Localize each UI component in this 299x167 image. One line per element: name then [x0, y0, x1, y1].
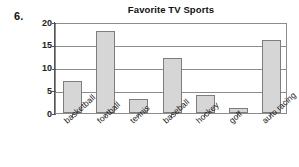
- y-axis-tick-mark: [52, 46, 56, 47]
- y-axis-tick-mark: [52, 91, 56, 92]
- y-axis-tick-mark: [52, 23, 56, 24]
- y-axis-tick-mark: [52, 69, 56, 70]
- y-axis-tick-label: 15: [30, 41, 52, 50]
- y-axis-tick-label: 5: [30, 87, 52, 96]
- y-axis-tick-label: 20: [30, 19, 52, 28]
- y-axis-tick-label: 10: [30, 64, 52, 73]
- worksheet-problem: 6. Favorite TV Sports 05101520 basketbal…: [0, 0, 299, 167]
- x-axis-category-labels: basketballfootballtennisbaseballhockeygo…: [0, 114, 299, 167]
- problem-number: 6.: [14, 10, 24, 22]
- chart-title: Favorite TV Sports: [55, 4, 287, 15]
